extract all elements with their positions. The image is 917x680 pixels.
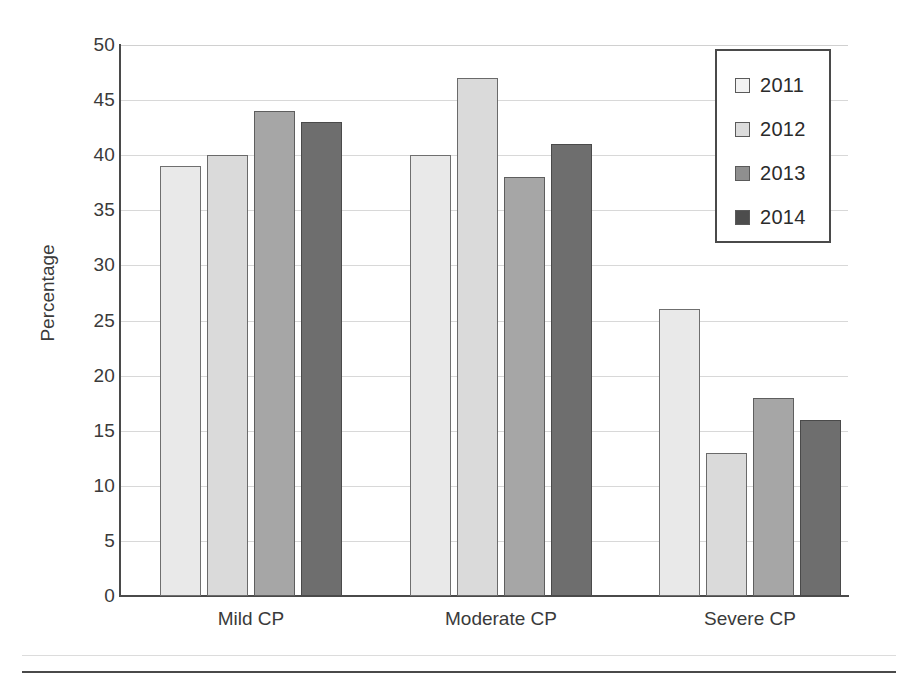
- legend-item-2011[interactable]: 2011: [717, 63, 829, 107]
- legend-item-2014[interactable]: 2014: [717, 195, 829, 239]
- x-tick-label-moderate-cp: Moderate CP: [411, 608, 591, 630]
- bar-moderate-cp-2014: [551, 144, 592, 596]
- y-tick-label-45: 45: [75, 89, 115, 111]
- legend-swatch-icon-2013: [735, 166, 750, 181]
- bar-severe-cp-2014: [800, 420, 841, 596]
- y-axis-title: Percentage: [37, 223, 59, 363]
- legend-label-2011: 2011: [760, 74, 804, 97]
- legend-label-2014: 2014: [760, 206, 806, 229]
- bar-severe-cp-2011: [659, 309, 700, 596]
- bar-mild-cp-2011: [160, 166, 201, 596]
- legend-swatch-icon-2012: [735, 122, 750, 137]
- legend-label-2012: 2012: [760, 118, 806, 141]
- bar-mild-cp-2014: [301, 122, 342, 596]
- legend-swatch-icon-2011: [735, 78, 750, 93]
- y-axis-tick-labels: 50454035302520151050: [60, 0, 115, 680]
- legend[interactable]: 2011201220132014: [715, 49, 831, 243]
- y-tick-label-30: 30: [75, 254, 115, 276]
- page-rule-dark: [22, 671, 896, 673]
- bar-severe-cp-2012: [706, 453, 747, 596]
- bar-mild-cp-2013: [254, 111, 295, 596]
- bar-moderate-cp-2013: [504, 177, 545, 596]
- x-tick-label-mild-cp: Mild CP: [161, 608, 341, 630]
- gridline-50: [121, 45, 848, 46]
- legend-label-2013: 2013: [760, 162, 806, 185]
- page-rule-light: [22, 655, 896, 656]
- bar-chart-figure: 50454035302520151050 Percentage Mild CPM…: [0, 0, 917, 680]
- y-tick-label-5: 5: [75, 530, 115, 552]
- y-tick-label-35: 35: [75, 199, 115, 221]
- bar-mild-cp-2012: [207, 155, 248, 596]
- y-tick-label-40: 40: [75, 144, 115, 166]
- legend-swatch-icon-2014: [735, 210, 750, 225]
- y-tick-label-0: 0: [75, 585, 115, 607]
- y-tick-label-50: 50: [75, 34, 115, 56]
- legend-item-2012[interactable]: 2012: [717, 107, 829, 151]
- legend-item-2013[interactable]: 2013: [717, 151, 829, 195]
- y-tick-label-20: 20: [75, 365, 115, 387]
- bar-moderate-cp-2012: [457, 78, 498, 596]
- x-tick-label-severe-cp: Severe CP: [660, 608, 840, 630]
- bar-moderate-cp-2011: [410, 155, 451, 596]
- y-tick-label-15: 15: [75, 420, 115, 442]
- y-tick-label-10: 10: [75, 475, 115, 497]
- y-tick-label-25: 25: [75, 310, 115, 332]
- bar-severe-cp-2013: [753, 398, 794, 596]
